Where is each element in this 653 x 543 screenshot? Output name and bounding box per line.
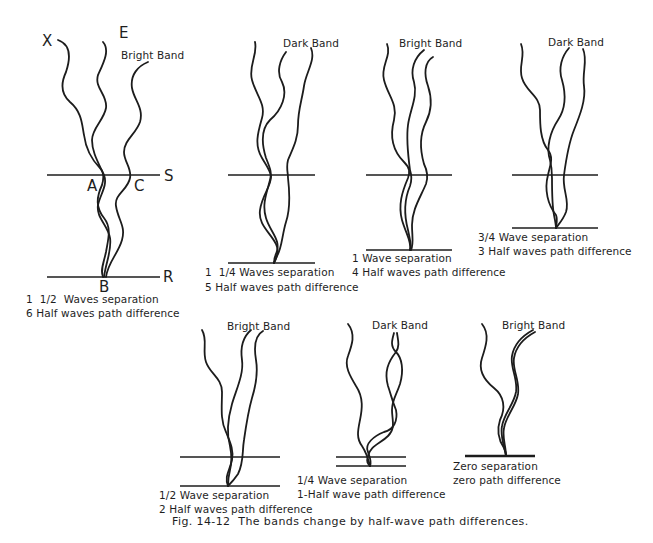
- panel-1-path-difference: 6 Half waves path difference: [26, 307, 180, 319]
- panel-2-path-difference: 5 Half waves path difference: [205, 281, 359, 293]
- panel-7-waves: [465, 324, 535, 456]
- panel-6-band-label: Dark Band: [372, 319, 428, 331]
- panel-6-waves: [336, 324, 406, 466]
- panel-3-path-difference: 4 Half waves path difference: [352, 266, 506, 278]
- panel-6-path-difference: 1-Half wave path difference: [297, 488, 446, 500]
- panel-7-separation: Zero separation: [453, 460, 538, 472]
- panel-2-separation: 1 1/4 Waves separation: [205, 266, 334, 278]
- wave-ray-1: [521, 44, 557, 228]
- panel-1-waves: [47, 40, 160, 277]
- wave-ray-3: [228, 331, 263, 486]
- label-c: C: [134, 178, 145, 194]
- panel-6-separation: 1/4 Wave separation: [297, 474, 407, 486]
- wave-ray-3: [503, 332, 535, 456]
- panel-1-band-label: Bright Band: [121, 49, 184, 61]
- panel-3-band-label: Bright Band: [399, 37, 462, 49]
- panel-3-waves: [366, 44, 452, 250]
- panel-3-separation: 1 Wave separation: [352, 252, 452, 264]
- panel-4-waves: [512, 44, 598, 228]
- panel-5-separation: 1/2 Wave separation: [159, 489, 269, 501]
- label-r: R: [163, 269, 174, 285]
- wave-ray-1: [202, 330, 233, 486]
- panel-7-band-label: Bright Band: [502, 319, 565, 331]
- wave-ray-1: [347, 324, 370, 466]
- panel-5-path-difference: 2 Half waves path difference: [159, 503, 313, 515]
- wave-ray-2: [263, 52, 286, 263]
- panel-4-band-label: Dark Band: [548, 36, 604, 48]
- label-a: A: [87, 178, 97, 194]
- panel-5-waves: [180, 330, 280, 486]
- label-s: S: [164, 168, 174, 184]
- panel-2-band-label: Dark Band: [283, 37, 339, 49]
- wave-ray-2: [228, 330, 251, 486]
- wave-ray-bright: [106, 62, 148, 277]
- panel-5-band-label: Bright Band: [227, 320, 290, 332]
- wave-ray-3: [274, 48, 312, 263]
- wave-ray-x: [58, 40, 109, 277]
- wave-ray-2: [367, 333, 402, 466]
- panel-4-separation: 3/4 Wave separation: [478, 231, 588, 243]
- panel-4-path-difference: 3 Half waves path difference: [478, 245, 632, 257]
- label-x: X: [42, 33, 52, 49]
- label-e: E: [119, 25, 129, 41]
- panel-1-separation: 1 1/2 Waves separation: [26, 293, 159, 305]
- figure-caption: Fig. 14-12 The bands change by half-wave…: [172, 515, 529, 528]
- panel-2-waves: [228, 42, 315, 263]
- panel-7-path-difference: zero path difference: [453, 474, 561, 486]
